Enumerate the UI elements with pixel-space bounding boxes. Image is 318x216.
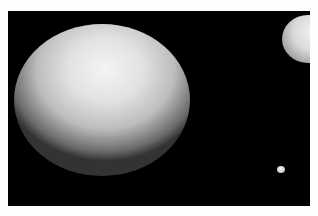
- small-sphere: [277, 166, 285, 173]
- right-clipped-sphere: [282, 15, 310, 63]
- render-canvas: [8, 11, 310, 206]
- large-sphere: [14, 24, 190, 176]
